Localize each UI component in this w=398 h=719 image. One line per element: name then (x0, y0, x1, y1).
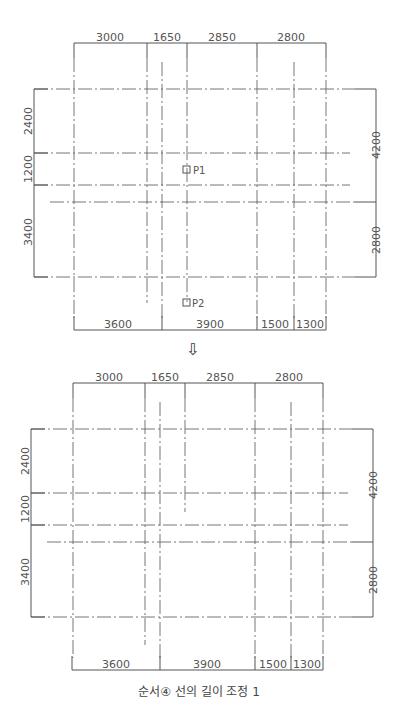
left-dimension-line: 2400 1200 3400 (22, 89, 48, 277)
dim-top-4: 2800 (275, 371, 303, 384)
dim-top-3: 2850 (206, 371, 234, 384)
top-dimension-line: 3000 1650 2850 2800 (73, 371, 323, 398)
dim-right-1: 4200 (370, 131, 383, 159)
dim-right-1: 4200 (367, 471, 380, 499)
bottom-dimension-line: 3600 3900 1500 1300 (72, 656, 323, 671)
dim-top-1: 3000 (95, 371, 123, 384)
point-label: P2 (192, 298, 204, 309)
point-p1[interactable]: P1 (183, 165, 205, 176)
point-marker-icon (183, 166, 190, 173)
point-marker-icon (183, 299, 190, 306)
point-label: P1 (193, 165, 205, 176)
dim-top-2: 1650 (151, 371, 179, 384)
dim-left-3: 3400 (19, 558, 32, 586)
dim-bottom-2: 3900 (196, 318, 224, 331)
down-arrow-icon: ⇩ (186, 340, 199, 359)
left-dimension-line: 2400 1200 3400 (19, 429, 45, 617)
dim-bottom-1: 3600 (104, 318, 132, 331)
dim-left-2: 1200 (22, 155, 35, 183)
dim-left-2: 1200 (19, 495, 32, 523)
dim-bottom-4: 1300 (293, 658, 321, 671)
figure-caption: 순서④ 선의 길이 조정 1 (0, 682, 398, 699)
grid-plan-drawings: .solid { stroke: #555; stroke-width: 1; … (0, 0, 398, 719)
horizontal-grid-lines (34, 89, 355, 277)
dim-bottom-2: 3900 (193, 658, 221, 671)
dim-bottom-3: 1500 (259, 658, 287, 671)
dim-left-3: 3400 (22, 218, 35, 246)
horizontal-grid-lines (31, 429, 352, 617)
vertical-grid-lines (73, 398, 323, 658)
dim-top-3: 2850 (208, 31, 236, 44)
dim-top-4: 2800 (277, 31, 305, 44)
dim-top-2: 1650 (153, 31, 181, 44)
dim-right-2: 2800 (367, 566, 380, 594)
right-dimension-line: 4200 2800 (352, 429, 380, 617)
dim-bottom-4: 1300 (296, 318, 324, 331)
dim-top-1: 3000 (96, 31, 124, 44)
dim-bottom-3: 1500 (261, 318, 289, 331)
drawing-before: 3000 1650 2850 2800 (22, 31, 383, 331)
vertical-grid-lines (74, 58, 326, 318)
right-dimension-line: 4200 2800 (355, 89, 383, 277)
drawing-after: 3000 1650 2850 2800 2400 (19, 371, 380, 671)
dim-right-2: 2800 (370, 226, 383, 254)
point-p2[interactable]: P2 (183, 298, 204, 309)
dim-left-1: 2400 (19, 447, 32, 475)
bottom-dimension-line: 3600 3900 1500 1300 (74, 316, 326, 331)
dim-left-1: 2400 (22, 107, 35, 135)
top-dimension-line: 3000 1650 2850 2800 (74, 31, 326, 58)
dim-bottom-1: 3600 (102, 658, 130, 671)
